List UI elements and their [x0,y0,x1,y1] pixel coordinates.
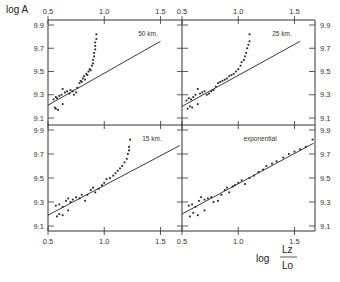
data-point [237,68,239,70]
data-point [246,47,248,49]
data-point [244,55,246,57]
y-tick-label-left: 9.7 [34,150,44,159]
y-tick-label-right: 9.5 [320,67,330,76]
panel-bottom-left: 15 km. [48,135,180,217]
y-tick-label-right: 9.9 [320,21,330,30]
data-point [121,165,123,167]
x-tick-label-top: 0.5 [177,7,187,16]
data-point [258,171,260,173]
data-point [92,59,94,61]
data-point [62,214,64,216]
data-point [62,103,64,105]
panel-bottom-right: exponential [182,135,314,217]
data-point [233,73,235,75]
data-point [224,189,226,191]
data-point [70,89,72,91]
data-point [56,97,58,99]
data-point [62,206,64,208]
data-point [247,44,249,46]
data-point [219,81,221,83]
data-point [70,201,72,203]
y-tick-label-right: 9.7 [320,44,330,53]
fit-line [48,41,161,105]
data-point [197,214,199,216]
data-point [124,162,126,164]
data-point [234,184,236,186]
x-axis-title: logLzLo [256,244,297,271]
data-point [67,210,69,212]
data-point [92,187,94,189]
data-point [191,107,193,109]
data-point [249,33,251,35]
data-point [232,186,234,188]
data-point [79,82,81,84]
y-tick-label-left: 9.1 [34,114,44,123]
data-point [189,216,191,218]
data-point [84,79,86,81]
data-point [106,178,108,180]
data-point [228,192,230,194]
panel-top-right: 25 km. [182,30,300,110]
data-point [195,206,197,208]
data-point [84,200,86,202]
x-tick-label-top: 1.5 [289,7,299,16]
data-point [119,168,121,170]
data-point [241,180,243,182]
data-point [61,94,63,96]
svg-text:Lz: Lz [282,244,293,255]
y-tick-label-left: 9.5 [34,67,44,76]
svg-text:Lo: Lo [282,260,294,271]
data-point [187,108,189,110]
data-point [222,80,224,82]
data-point [101,184,103,186]
data-point [237,182,239,184]
data-point [188,205,190,207]
data-point [81,81,83,83]
data-point [240,65,242,67]
data-point [204,199,206,201]
data-point [109,177,111,179]
data-point [57,109,59,111]
y-axis-title: log A [6,4,29,15]
data-point [90,69,92,71]
y-tick-label-right: 9.3 [320,198,330,207]
x-tick-label-bottom: 1.5 [155,237,165,246]
data-point [253,175,255,177]
y-tick-label-left: 9.5 [34,174,44,183]
y-tick-label-left: 9.9 [34,126,44,135]
axes-frame [48,16,315,235]
data-point [276,160,278,162]
data-point [200,196,202,198]
data-point [82,78,84,80]
panel-label: 25 km. [272,30,292,37]
data-point [93,55,95,57]
data-point [95,33,97,35]
data-point [75,196,77,198]
data-point [94,192,96,194]
y-tick-label-left: 9.7 [34,44,44,53]
data-point [208,93,210,95]
fit-line [182,143,314,214]
data-point [90,189,92,191]
data-point [75,92,77,94]
data-point [83,75,85,77]
data-point [73,94,75,96]
data-point [58,213,60,215]
data-point [76,87,78,89]
data-point [245,52,247,54]
data-point [224,79,226,81]
data-point [206,94,208,96]
data-point [67,198,69,200]
data-point [231,74,233,76]
data-point [94,49,96,51]
data-point [128,150,130,152]
data-point [53,99,55,101]
data-point [210,90,212,92]
x-tick-label-top: 0.5 [43,7,53,16]
data-point [312,139,314,141]
data-point [197,103,199,105]
x-tick-label-bottom: 0.5 [43,237,53,246]
data-point [58,204,60,206]
data-point [201,92,203,94]
data-point [88,71,90,73]
